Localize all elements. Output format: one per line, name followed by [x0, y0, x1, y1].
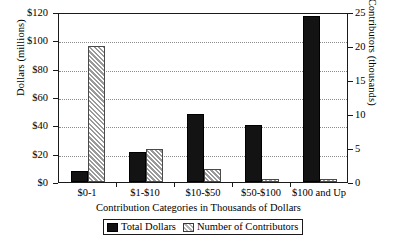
x-axis-title: Contribution Categories in Thousands of …	[0, 202, 397, 213]
legend-swatch-number-of-contributors	[183, 223, 194, 232]
legend-label-total-dollars: Total Dollars	[121, 221, 176, 233]
y-axis-left-tick-label: $40	[0, 121, 48, 131]
x-axis-category-label: $10-$50	[174, 187, 232, 198]
legend-label-number-of-contributors: Number of Contributors	[197, 221, 299, 233]
bar-total-dollars	[71, 171, 88, 182]
y-axis-right-tick-label: 10	[355, 110, 379, 120]
y-axis-right-tick-label: 15	[355, 76, 379, 86]
bar-number-of-contributors	[204, 169, 221, 182]
bar-number-of-contributors	[262, 179, 279, 182]
y-axis-left-tick-label: $100	[0, 36, 48, 46]
plot-area	[58, 13, 348, 183]
legend-swatch-total-dollars	[107, 223, 118, 232]
legend-item-number-of-contributors: Number of Contributors	[183, 221, 299, 233]
y-axis-right-tick-label: 5	[355, 144, 379, 154]
y-axis-right-tick-label: 0	[355, 178, 379, 188]
bars-layer	[59, 14, 347, 182]
bar-total-dollars	[245, 125, 262, 182]
y-axis-left-tick-label: $60	[0, 93, 48, 103]
x-axis-category-label: $100 and Up	[290, 187, 348, 198]
chart-container: Dollars (millions) Number of Contributor…	[0, 0, 397, 247]
x-axis-category-label: $50-$100	[232, 187, 290, 198]
y-axis-right-tick-mark	[348, 81, 353, 82]
y-axis-right-tick-label: 20	[355, 42, 379, 52]
y-axis-left-tick-label: $0	[0, 178, 48, 188]
y-axis-right-tick-mark	[348, 47, 353, 48]
y-axis-left-tick-mark	[53, 183, 58, 184]
bar-total-dollars	[129, 152, 146, 182]
y-axis-left-tick-label: $20	[0, 150, 48, 160]
y-axis-right-tick-mark	[348, 115, 353, 116]
chart-legend: Total Dollars Number of Contributors	[103, 219, 303, 235]
y-axis-right-tick-mark	[348, 149, 353, 150]
y-axis-right-tick-mark	[348, 13, 353, 14]
bar-number-of-contributors	[320, 179, 337, 182]
legend-item-total-dollars: Total Dollars	[107, 221, 176, 233]
y-axis-left-tick-label: $120	[0, 8, 48, 18]
x-axis-category-label: $1-$10	[116, 187, 174, 198]
y-axis-left-tick-label: $80	[0, 65, 48, 75]
x-axis-tick-mark	[116, 183, 117, 187]
y-axis-right-tick-mark	[348, 183, 353, 184]
x-axis-category-label: $0-1	[58, 187, 116, 198]
x-axis-tick-mark	[232, 183, 233, 187]
page-caption	[22, 239, 262, 247]
bar-total-dollars	[303, 16, 320, 182]
y-axis-right-title: Number of Contributors (thousands)	[367, 0, 378, 123]
bar-total-dollars	[187, 114, 204, 182]
x-axis-tick-mark	[174, 183, 175, 187]
bar-number-of-contributors	[146, 149, 163, 182]
bar-number-of-contributors	[88, 46, 105, 182]
x-axis-tick-mark	[290, 183, 291, 187]
y-axis-right-tick-label: 25	[355, 8, 379, 18]
